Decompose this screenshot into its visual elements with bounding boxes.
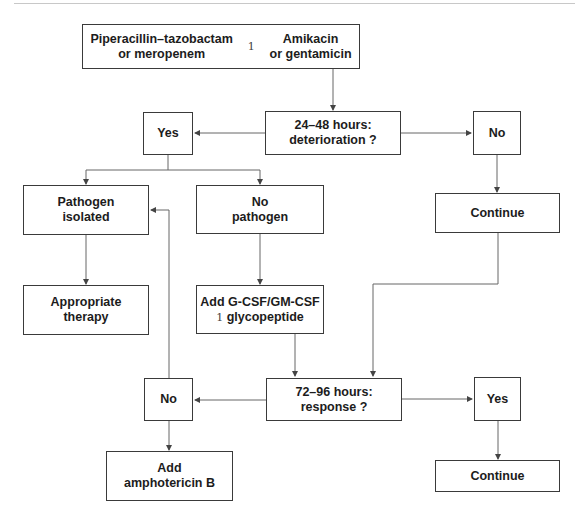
decision-1-line2: deterioration ? [289,133,377,148]
add-amphotericin-box: Add amphotericin B [106,451,233,501]
decision-response-box: 72–96 hours: response ? [266,378,402,421]
decision-2-line1: 72–96 hours: [295,385,372,400]
pathogen-isolated-line1: Pathogen [58,195,115,210]
left-drug-line1: Piperacillin–tazobactam [90,32,232,47]
add-gcsf-box: Add G-CSF/GM-CSF 1 glycopeptide [196,285,324,334]
decision-2-yes-box: Yes [474,377,521,421]
continue-1-box: Continue [435,193,560,233]
decision-2-no-box: No [144,378,193,421]
right-drug-line2: or gentamicin [270,47,352,62]
no-label: No [489,126,506,141]
add-gcsf-line1: Add G-CSF/GM-CSF [200,295,319,310]
decision-deterioration-box: 24–48 hours: deterioration ? [265,111,401,155]
decision-2-line2: response ? [301,400,368,415]
add-amphotericin-line2: amphotericin B [124,476,215,491]
add-amphotericin-line1: Add [157,461,181,476]
appropriate-therapy-box: Appropriate therapy [23,285,149,335]
no-label: No [160,392,177,407]
appropriate-therapy-line2: therapy [63,310,108,325]
decision-1-line1: 24–48 hours: [294,118,371,133]
yes-label: Yes [157,126,179,141]
plus-connector: 1 [248,39,255,54]
decision-1-no-box: No [473,111,521,155]
plus-connector: 1 [216,311,223,324]
add-gcsf-line2-wrap: 1 glycopeptide [216,310,304,325]
yes-label: Yes [487,392,509,407]
add-gcsf-line2: glycopeptide [227,310,304,324]
continue-label: Continue [470,206,524,221]
start-regimen-box: Piperacillin–tazobactam or meropenem 1 A… [82,24,360,69]
right-drug-line1: Amikacin [283,32,339,47]
no-pathogen-line2: pathogen [232,210,288,225]
continue-label: Continue [470,469,524,484]
start-left-drug: Piperacillin–tazobactam or meropenem [90,32,232,62]
appropriate-therapy-line1: Appropriate [51,295,122,310]
left-drug-line2: or meropenem [118,47,205,62]
decision-1-yes-box: Yes [143,112,193,155]
pathogen-isolated-line2: isolated [62,210,109,225]
no-pathogen-box: No pathogen [196,185,324,234]
continue-2-box: Continue [435,460,560,492]
no-pathogen-line1: No [252,195,269,210]
pathogen-isolated-box: Pathogen isolated [23,185,149,235]
connector-lines [0,0,582,520]
start-right-drug: Amikacin or gentamicin [270,32,352,62]
